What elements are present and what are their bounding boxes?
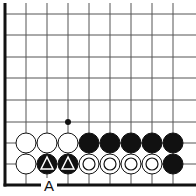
black-stone xyxy=(163,133,183,153)
white-stone xyxy=(121,154,141,174)
go-board-diagram xyxy=(0,0,196,196)
black-stone xyxy=(142,133,162,153)
point-label: A xyxy=(41,178,57,193)
white-stone xyxy=(37,133,57,153)
point-marker-dot xyxy=(65,119,71,125)
black-stone xyxy=(163,154,183,174)
white-stone xyxy=(58,133,78,153)
black-stone xyxy=(121,133,141,153)
black-stone xyxy=(100,133,120,153)
white-stone xyxy=(79,154,99,174)
white-stone xyxy=(16,133,36,153)
white-stone xyxy=(16,154,36,174)
white-stone xyxy=(100,154,120,174)
black-stone xyxy=(79,133,99,153)
white-stone xyxy=(142,154,162,174)
